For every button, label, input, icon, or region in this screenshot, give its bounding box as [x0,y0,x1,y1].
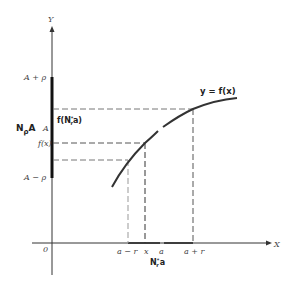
label-neighborhood-a: NρA [16,123,36,136]
y-axis-arrow-icon [50,26,55,32]
label-a-minus-rho: A − ρ [23,173,47,182]
x-axis-label: X [273,240,280,249]
label-x-a: a [159,247,164,256]
label-x-a-plus-r: a + r [184,247,206,256]
label-x-a-minus-r: a − r [117,247,139,256]
label-neighborhood-x: N*ra [150,257,165,268]
curve-upper [163,98,237,127]
origin-label: 0 [43,245,48,254]
curve-lower [112,131,158,187]
x-axis-arrow-icon [266,241,272,246]
label-a-plus-rho: A + ρ [23,73,47,82]
label-image-neighborhood: f(N*ra) [57,115,82,126]
curve-label: y = f(x) [200,86,236,96]
limit-diagram: Y X 0 y = f(x) A + ρ A f(x) A − ρ f(N*ra… [0,0,295,287]
label-fx: f(x) [37,139,52,148]
label-x-x: x [144,247,149,256]
label-a: A [42,124,49,133]
y-axis-label: Y [48,15,54,24]
